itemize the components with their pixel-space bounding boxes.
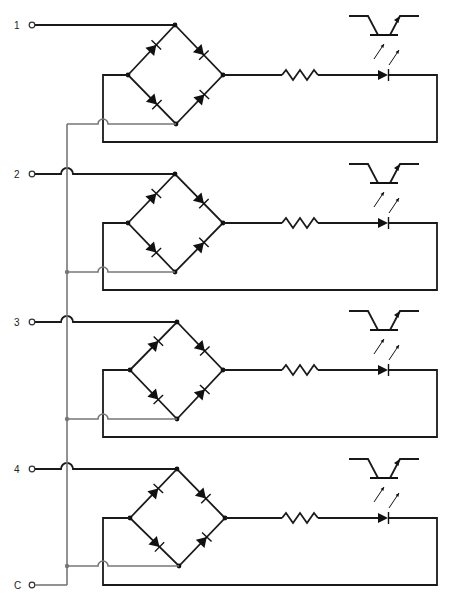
bridge-rectifier [128, 174, 223, 272]
led-icon [378, 365, 388, 375]
light-emission-arrows-icon [374, 487, 399, 508]
channel-3 [35, 311, 437, 437]
terminal-common-icon[interactable] [29, 582, 35, 588]
led-icon [378, 70, 388, 80]
emitter-arrow-icon [394, 16, 400, 23]
terminal-label-1: 1 [14, 20, 20, 31]
bridge-rectifier [130, 322, 223, 419]
phototransistor-icon [349, 311, 419, 330]
junction-dot-icon [173, 172, 178, 177]
terminal-label-2: 2 [14, 169, 20, 180]
resistor-icon [282, 513, 318, 523]
input-wire [35, 168, 175, 174]
phototransistor-icon [349, 164, 419, 183]
channel-2 [35, 164, 437, 290]
terminal-label-3: 3 [14, 317, 20, 328]
terminal-4-icon[interactable] [29, 466, 35, 472]
common-tap-wire [67, 119, 176, 124]
bridge-rectifier [130, 469, 225, 566]
terminal-label-4: 4 [14, 464, 20, 475]
input-wire [35, 463, 177, 469]
light-emission-arrows-icon [374, 192, 399, 213]
channel-1 [35, 16, 437, 142]
common-bus [35, 119, 179, 585]
terminal-2-icon[interactable] [29, 171, 35, 177]
channels [35, 16, 437, 585]
light-emission-arrows-icon [374, 44, 399, 65]
phototransistor-icon [349, 459, 419, 478]
light-emission-arrows-icon [374, 339, 399, 360]
terminal-3-icon[interactable] [29, 319, 35, 325]
resistor-icon [282, 218, 318, 228]
return-loop-wire [103, 370, 437, 437]
terminal-label-common: C [14, 580, 21, 591]
resistor-icon [282, 365, 318, 375]
circuit-diagram: 1234C [0, 0, 458, 604]
common-tap-wire [67, 267, 175, 272]
common-tap-wire [67, 414, 177, 419]
junction-dot-icon [175, 467, 180, 472]
terminal-1-icon[interactable] [29, 22, 35, 28]
junction-dot-icon [173, 23, 178, 28]
terminal-labels: 1234C [14, 20, 35, 591]
emitter-arrow-icon [394, 459, 400, 466]
emitter-arrow-icon [394, 164, 400, 171]
led-icon [378, 218, 388, 228]
common-tap-wire [67, 561, 179, 566]
phototransistor-icon [349, 16, 419, 35]
junction-dot-icon [175, 320, 180, 325]
emitter-arrow-icon [394, 311, 400, 318]
return-loop-wire [103, 518, 437, 585]
resistor-icon [282, 70, 318, 80]
bridge-rectifier [128, 25, 223, 124]
input-wire [35, 316, 177, 322]
led-icon [378, 513, 388, 523]
